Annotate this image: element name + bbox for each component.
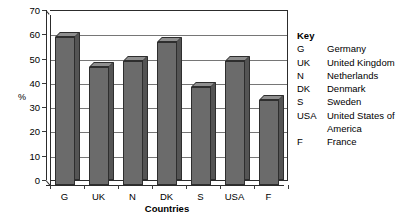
legend-item-abbreviation: F — [297, 135, 327, 148]
legend-item: NNetherlands — [297, 69, 419, 82]
x-axis-tick-label: G — [47, 191, 83, 202]
x-axis-tick-mark — [220, 185, 221, 189]
bar-front-face — [89, 67, 109, 185]
legend-item-abbreviation: DK — [297, 82, 327, 95]
x-axis-tick-mark — [118, 185, 119, 189]
bar-chart-figure: % 706050403020100 GUKNDKSUSAF Countries — [0, 0, 295, 217]
x-axis-tick-mark — [84, 185, 85, 189]
bar-side-face — [245, 56, 250, 180]
legend-item: UKUnited Kingdom — [297, 56, 419, 69]
chart-page: % 706050403020100 GUKNDKSUSAF Countries … — [0, 0, 419, 217]
bar-front-face — [191, 87, 211, 185]
y-axis-tick-label: 10 — [18, 151, 40, 161]
bar-side-face — [109, 62, 114, 180]
x-axis-tick-label: S — [183, 191, 219, 202]
legend-item-country: Germany — [327, 42, 419, 55]
legend-item: GGermany — [297, 42, 419, 55]
legend-item-country: Sweden — [327, 95, 419, 108]
legend-item: SSweden — [297, 95, 419, 108]
x-axis-tick-label: USA — [217, 191, 253, 202]
y-axis-tick-label: 50 — [18, 54, 40, 64]
legend-item-abbreviation: UK — [297, 56, 327, 69]
x-axis-tick-mark — [152, 185, 153, 189]
bar — [191, 82, 216, 185]
y-axis-tick-label: 20 — [18, 127, 40, 137]
bar-front-face — [225, 61, 245, 185]
legend-item: DKDenmark — [297, 82, 419, 95]
y-axis-tick-label: 60 — [18, 30, 40, 40]
legend-item-abbreviation: S — [297, 95, 327, 108]
bars-layer — [46, 15, 288, 185]
x-axis-tick-label: DK — [149, 191, 185, 202]
x-axis-title: Countries — [46, 203, 288, 214]
bar-side-face — [211, 82, 216, 180]
x-axis-tick-mark — [254, 185, 255, 189]
y-axis-tick-label: 70 — [18, 6, 40, 16]
bar-top-face — [157, 37, 182, 42]
legend-item-country: France — [327, 135, 419, 148]
bar-side-face — [279, 95, 284, 180]
legend-item: FFrance — [297, 135, 419, 148]
x-axis-tick-mark — [50, 185, 51, 189]
y-axis-tick-labels: 706050403020100 — [18, 10, 40, 180]
bar — [55, 32, 80, 185]
legend: Key GGermanyUKUnited KingdomNNetherlands… — [297, 29, 419, 149]
bar-front-face — [259, 100, 279, 185]
legend-item-country: Netherlands — [327, 69, 419, 82]
bar-side-face — [177, 37, 182, 180]
bar — [259, 95, 284, 185]
bar-front-face — [55, 37, 75, 185]
bar-front-face — [157, 42, 177, 185]
x-axis-tick-marks — [46, 185, 288, 190]
y-axis-tick-label: 0 — [18, 176, 40, 186]
bar — [89, 62, 114, 185]
bar-top-face — [191, 82, 216, 87]
legend-item: USAUnited States of America — [297, 109, 419, 136]
legend-title: Key — [297, 29, 419, 42]
legend-item-abbreviation: N — [297, 69, 327, 82]
legend-item-country: Denmark — [327, 82, 419, 95]
bar — [225, 56, 250, 185]
bar — [123, 56, 148, 185]
x-axis-tick-mark — [186, 185, 187, 189]
bar — [157, 37, 182, 185]
x-axis-tick-label: F — [251, 191, 287, 202]
y-axis-tick-label: 40 — [18, 78, 40, 88]
legend-rows: GGermanyUKUnited KingdomNNetherlandsDKDe… — [297, 42, 419, 148]
legend-item-abbreviation: G — [297, 42, 327, 55]
bar-top-face — [55, 32, 80, 37]
legend-item-abbreviation: USA — [297, 109, 327, 122]
bar-front-face — [123, 61, 143, 185]
x-axis-tick-label: N — [115, 191, 151, 202]
x-axis-tick-label: UK — [81, 191, 117, 202]
x-axis-tick-mark — [288, 185, 289, 189]
legend-item-country: United States of America — [327, 109, 419, 136]
y-axis-tick-label: 30 — [18, 103, 40, 113]
bar-side-face — [75, 32, 80, 180]
bar-side-face — [143, 56, 148, 180]
legend-item-country: United Kingdom — [327, 56, 419, 69]
